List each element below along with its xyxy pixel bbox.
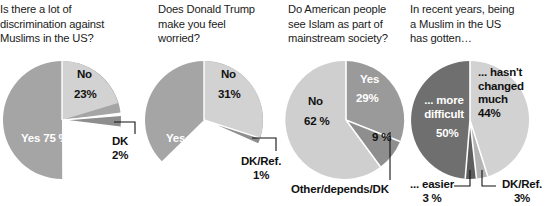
- label-no: No: [308, 95, 323, 109]
- label-yes: Yes 68 %: [166, 132, 214, 146]
- callout-easier: ... easier 3 %: [408, 178, 456, 205]
- label-no: No: [77, 68, 92, 82]
- label-no-value: 31%: [218, 88, 240, 102]
- label-difficult-l2: difficult: [424, 108, 464, 120]
- label-other-value: 9 %: [372, 131, 391, 145]
- callout-dkref-value: 1%: [253, 169, 269, 181]
- question-line-1: Does Donald Trump: [158, 3, 255, 15]
- pie-chart-discrimination: [2, 58, 140, 183]
- question-line-3: worried?: [158, 32, 200, 44]
- label-yes-value: 29%: [356, 92, 378, 106]
- label-difficult-l1: ... more: [424, 94, 463, 106]
- label-no-text: No: [221, 68, 236, 80]
- label-no-value-text: 31%: [218, 88, 240, 100]
- label-unchanged-l3: much: [478, 93, 508, 105]
- callout-other-label: Other/depends/DK: [291, 183, 389, 195]
- callout-dkref-label: DK/Ref.: [241, 155, 281, 167]
- label-yes-text: Yes 68 %: [166, 132, 214, 144]
- label-unchanged-value: 44%: [478, 107, 500, 119]
- question-line-3: has gotten…: [410, 32, 472, 44]
- pie-svg-1: [2, 58, 140, 183]
- chart-panel-trump-worry: Does Donald Trump make you feel worried?…: [158, 0, 298, 206]
- label-unchanged-l2: changed: [478, 80, 524, 92]
- label-no-value-text: 62 %: [304, 115, 329, 127]
- label-no-text: No: [308, 95, 323, 107]
- question-line-2: make you feel: [158, 18, 226, 30]
- label-unchanged-l1: ... hasn't: [478, 66, 522, 78]
- label-yes: Yes 75 %: [21, 132, 69, 146]
- label-no-text: No: [77, 68, 92, 80]
- callout-dkref-value: 3%: [514, 192, 530, 204]
- label-no-value: 62 %: [304, 115, 329, 129]
- question-line-2: a Muslim in the US: [410, 18, 501, 30]
- question-line-2: see Islam as part of: [288, 18, 383, 30]
- question-line-1: In recent years, being: [410, 3, 514, 15]
- callout-dk-label: DK: [112, 135, 128, 147]
- label-yes-text: Yes: [360, 73, 379, 85]
- callout-dk-value: 2%: [112, 149, 128, 161]
- question-line-1: Do American people: [288, 3, 386, 15]
- chart-panel-being-muslim: In recent years, being a Muslim in the U…: [410, 0, 548, 206]
- callout-other: Other/depends/DK: [291, 183, 389, 197]
- label-difficult: ... more difficult: [419, 94, 469, 121]
- question-line-2: discrimination against: [0, 18, 104, 30]
- label-no-value: 23%: [74, 88, 96, 102]
- callout-dkref: DK/Ref. 1%: [241, 155, 281, 182]
- label-difficult-value-text: 50%: [436, 127, 458, 139]
- callout-easier-label: ... easier: [410, 178, 454, 190]
- panel-1-question: Is there a lot of discrimination against…: [0, 2, 138, 46]
- label-unchanged: ... hasn't changed much 44%: [478, 66, 524, 120]
- label-yes: Yes: [360, 73, 379, 87]
- callout-dkref-label: DK/Ref.: [502, 178, 542, 190]
- label-no-value-text: 23%: [74, 88, 96, 100]
- question-line-1: Is there a lot of: [0, 3, 71, 15]
- label-yes-text: Yes 75 %: [21, 132, 69, 144]
- question-line-3: mainstream society?: [288, 32, 388, 44]
- label-other-value-text: 9 %: [372, 131, 391, 143]
- callout-easier-value: 3 %: [422, 192, 441, 204]
- panel-2-question: Does Donald Trump make you feel worried?: [158, 2, 298, 46]
- label-difficult-value: 50%: [436, 127, 458, 141]
- callout-dkref: DK/Ref. 3%: [496, 178, 548, 205]
- label-no: No: [221, 68, 236, 82]
- label-yes-value-text: 29%: [356, 92, 378, 104]
- chart-panel-discrimination: Is there a lot of discrimination against…: [0, 0, 140, 206]
- callout-dk: DK 2%: [112, 135, 128, 162]
- panel-4-question: In recent years, being a Muslim in the U…: [410, 2, 548, 46]
- question-line-3: Muslims in the US?: [0, 32, 94, 44]
